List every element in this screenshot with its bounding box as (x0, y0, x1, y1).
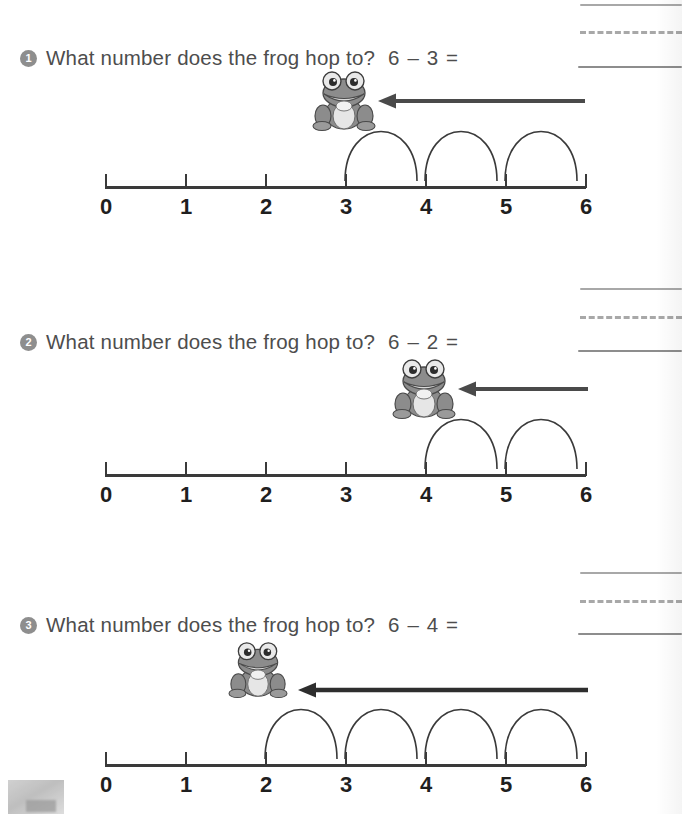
tick-3-0 (105, 752, 107, 766)
tick-2-0 (105, 462, 107, 476)
tick-label-3-0: 0 (91, 772, 121, 798)
tick-label-2-3: 3 (331, 482, 361, 508)
tick-label-3-2: 2 (251, 772, 281, 798)
tick-label-2-1: 1 (171, 482, 201, 508)
solid-rule-1 (580, 4, 682, 6)
tick-label-1-1: 1 (171, 194, 201, 220)
tick-label-3-5: 5 (491, 772, 521, 798)
tick-1-0 (105, 174, 107, 188)
solid-rule-3 (580, 572, 682, 574)
problem-2-numberline: 0 1 2 3 4 5 6 (0, 345, 682, 515)
scan-smudge-dark (26, 800, 56, 812)
tick-label-3-3: 3 (331, 772, 361, 798)
dashed-rule-2 (580, 316, 682, 319)
tick-label-1-0: 0 (91, 194, 121, 220)
tick-label-2-5: 5 (491, 482, 521, 508)
hop-arcs-2 (100, 393, 600, 471)
tick-label-1-2: 2 (251, 194, 281, 220)
tick-1-4 (425, 174, 427, 188)
tick-label-2-2: 2 (251, 482, 281, 508)
tick-1-2 (265, 174, 267, 188)
dashed-rule-1 (580, 31, 682, 34)
dashed-rule-3 (580, 600, 682, 603)
problem-3-numberline: 0 1 2 3 4 5 6 (0, 628, 682, 798)
tick-3-3 (345, 752, 347, 766)
hop-arcs-1 (100, 105, 600, 183)
worksheet-page: 1 What number does the frog hop to? 6 – … (0, 0, 682, 814)
tick-3-4 (425, 752, 427, 766)
tick-2-4 (425, 462, 427, 476)
tick-label-1-3: 3 (331, 194, 361, 220)
solid-rule-2 (580, 288, 682, 290)
tick-1-1 (185, 174, 187, 188)
tick-3-5 (505, 752, 507, 766)
tick-2-3 (345, 462, 347, 476)
tick-1-6 (585, 174, 587, 188)
tick-label-1-5: 5 (491, 194, 521, 220)
tick-label-1-4: 4 (411, 194, 441, 220)
tick-label-2-6: 6 (571, 482, 601, 508)
tick-label-1-6: 6 (571, 194, 601, 220)
tick-label-2-0: 0 (91, 482, 121, 508)
tick-label-3-6: 6 (571, 772, 601, 798)
tick-2-6 (585, 462, 587, 476)
tick-label-3-1: 1 (171, 772, 201, 798)
tick-1-5 (505, 174, 507, 188)
tick-1-3 (345, 174, 347, 188)
tick-2-1 (185, 462, 187, 476)
tick-2-5 (505, 462, 507, 476)
problem-1-numberline: 0 1 2 3 4 5 6 (0, 60, 682, 230)
tick-3-1 (185, 752, 187, 766)
tick-2-2 (265, 462, 267, 476)
hop-arcs-3 (100, 683, 600, 761)
tick-3-6 (585, 752, 587, 766)
tick-label-3-4: 4 (411, 772, 441, 798)
tick-label-2-4: 4 (411, 482, 441, 508)
tick-3-2 (265, 752, 267, 766)
